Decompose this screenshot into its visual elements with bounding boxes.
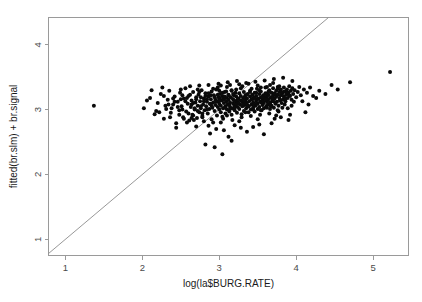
data-point [185, 121, 189, 125]
data-point [230, 118, 234, 122]
data-point [171, 97, 175, 101]
data-point [297, 85, 301, 89]
data-point [203, 143, 207, 147]
data-point [267, 89, 271, 93]
data-point [202, 119, 206, 123]
data-point [219, 110, 223, 114]
data-point [222, 128, 226, 132]
data-point [194, 124, 198, 128]
data-point [299, 93, 303, 97]
data-point [208, 102, 212, 106]
data-point [150, 88, 154, 92]
data-point [191, 90, 195, 94]
data-point [254, 91, 258, 95]
data-point [230, 88, 234, 92]
data-point [271, 81, 275, 85]
data-point [303, 110, 307, 114]
data-point [242, 99, 246, 103]
data-point [302, 87, 306, 91]
data-point [183, 86, 187, 90]
data-point [258, 113, 262, 117]
data-point [300, 99, 304, 103]
data-point [260, 95, 264, 99]
data-point [205, 108, 209, 112]
data-point [272, 77, 276, 81]
data-point [198, 99, 202, 103]
data-point [253, 80, 257, 84]
data-point [166, 98, 170, 102]
data-point [277, 104, 281, 108]
data-point [217, 89, 221, 93]
data-point [245, 130, 249, 134]
identity-reference-line [49, 18, 329, 254]
x-tick-label: 4 [294, 262, 299, 273]
data-point [263, 78, 267, 82]
data-point [348, 80, 352, 84]
data-point [92, 104, 96, 108]
data-point [278, 98, 282, 102]
data-point [277, 84, 281, 88]
data-point [148, 96, 152, 100]
data-point [145, 99, 149, 103]
data-point [176, 105, 180, 109]
data-point [247, 82, 251, 86]
reference-line [49, 18, 329, 254]
data-point [323, 92, 327, 96]
data-point [314, 96, 318, 100]
data-point [308, 86, 312, 90]
data-point [283, 102, 287, 106]
data-point [276, 108, 280, 112]
data-point [265, 106, 269, 110]
data-point [196, 87, 200, 91]
y-tick-label: 4 [32, 42, 43, 47]
data-point [230, 139, 234, 143]
data-point [199, 95, 203, 99]
data-point [291, 92, 295, 96]
data-point [162, 94, 166, 98]
data-point [179, 87, 183, 91]
data-point [236, 97, 240, 101]
data-point [162, 117, 166, 121]
data-point [228, 83, 232, 87]
data-point [388, 70, 392, 74]
y-tick-label: 1 [32, 237, 43, 242]
y-axis-ticks: 1234 [32, 42, 49, 242]
data-point [271, 86, 275, 90]
data-point [215, 113, 219, 117]
data-point [225, 113, 229, 117]
data-point [224, 89, 228, 93]
data-point [203, 94, 207, 98]
data-point [237, 82, 241, 86]
data-point [217, 99, 221, 103]
data-point [156, 101, 160, 105]
data-point [174, 126, 178, 130]
data-point [247, 104, 251, 108]
data-point [294, 95, 298, 99]
data-point [167, 89, 171, 93]
x-tick-label: 3 [217, 262, 222, 273]
data-point [290, 79, 294, 83]
data-point [253, 96, 257, 100]
data-point [283, 97, 287, 101]
data-point [280, 90, 284, 94]
data-point [235, 111, 239, 115]
y-tick-label: 3 [32, 107, 43, 112]
data-point [220, 152, 224, 156]
data-point [157, 110, 161, 114]
data-point [191, 101, 195, 105]
data-point [219, 84, 223, 88]
data-point [239, 126, 243, 130]
data-point [245, 93, 249, 97]
data-point [227, 93, 231, 97]
data-point [188, 93, 192, 97]
data-point [237, 107, 241, 111]
scatter-plot-figure: 12345 1234 log(la$BURG.RATE) fitted(br.s… [0, 0, 422, 302]
data-point [271, 99, 275, 103]
data-point [259, 86, 263, 90]
data-point [213, 145, 217, 149]
data-point [257, 123, 261, 127]
data-point [317, 89, 321, 93]
data-point [250, 87, 254, 91]
data-point [207, 124, 211, 128]
data-point [180, 108, 184, 112]
